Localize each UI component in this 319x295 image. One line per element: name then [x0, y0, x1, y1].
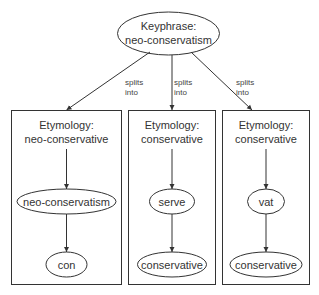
svg-text:vat: vat	[259, 196, 274, 208]
svg-text:serve: serve	[159, 196, 186, 208]
group-2-title-line1: Etymology:	[145, 119, 199, 131]
svg-text:into: into	[174, 88, 187, 97]
etymology-diagram: Keyphrase: neo-conservatism splits into …	[0, 0, 319, 295]
svg-text:into: into	[125, 88, 138, 97]
group-3-title-line2: conservative	[235, 133, 297, 145]
group-1-title-line1: Etymology:	[39, 119, 93, 131]
svg-text:con: con	[58, 259, 76, 271]
svg-text:into: into	[236, 88, 249, 97]
node-conservative-1: conservative	[138, 252, 207, 277]
edge-label-3: splits into	[236, 78, 254, 97]
edge-label-1: splits into	[125, 78, 143, 97]
svg-text:splits: splits	[125, 78, 143, 87]
group-2-title-line2: conservative	[141, 133, 203, 145]
edge-label-2: splits into	[174, 78, 192, 97]
svg-text:splits: splits	[236, 78, 254, 87]
root-node-label-line1: Keyphrase:	[141, 20, 197, 32]
node-vat: vat	[248, 189, 285, 214]
node-conservative-2: conservative	[230, 252, 302, 277]
root-node: Keyphrase: neo-conservatism	[118, 12, 220, 55]
root-node-label-line2: neo-conservatism	[125, 34, 212, 46]
group-3-title-line1: Etymology:	[239, 119, 293, 131]
svg-text:conservative: conservative	[235, 259, 297, 271]
node-con: con	[46, 252, 87, 277]
node-neo-conservatism: neo-conservatism	[17, 189, 116, 214]
svg-text:splits: splits	[174, 78, 192, 87]
node-serve: serve	[150, 189, 195, 214]
svg-text:conservative: conservative	[141, 259, 203, 271]
group-1-title-line2: neo-conservative	[25, 133, 109, 145]
svg-text:neo-conservatism: neo-conservatism	[23, 196, 110, 208]
